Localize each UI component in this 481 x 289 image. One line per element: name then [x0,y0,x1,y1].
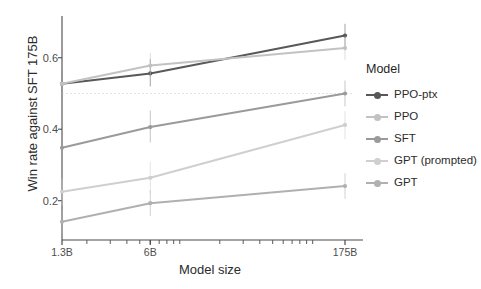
data-point [60,220,64,224]
series-line [62,93,345,147]
data-point [60,82,64,86]
chart-figure: Win rate against SFT 175B Model size 0.2… [0,0,481,289]
data-point [60,146,64,150]
legend-swatch-icon [366,133,388,145]
series-line [62,125,345,192]
series-ppo [60,36,347,98]
legend-item-gpt[interactable]: GPT [366,173,477,193]
data-point [60,190,64,194]
legend: Model PPO-ptxPPOSFTGPT (prompted)GPT [366,62,477,195]
legend-item-label: PPO-ptx [394,89,437,101]
legend-item-sft[interactable]: SFT [366,129,477,149]
series-gpt [60,173,347,234]
series-gpt-prompted [60,111,347,205]
legend-item-label: PPO [394,111,418,123]
legend-items: PPO-ptxPPOSFTGPT (prompted)GPT [366,85,477,193]
legend-item-ppo[interactable]: PPO [366,107,477,127]
data-point [148,64,152,68]
series-line [62,186,345,222]
data-point [148,125,152,129]
data-point [343,184,347,188]
legend-swatch-icon [366,111,388,123]
data-point [148,176,152,180]
legend-title: Model [366,62,477,76]
data-point [343,46,347,50]
legend-swatch-icon [366,177,388,189]
legend-item-label: SFT [394,133,416,145]
data-point [343,123,347,127]
data-point [148,201,152,205]
legend-swatch-icon [366,155,388,167]
series-line [62,36,345,84]
legend-item-label: GPT [394,177,418,189]
legend-item-gpt-prompted[interactable]: GPT (prompted) [366,151,477,171]
legend-item-ppo-ptx[interactable]: PPO-ptx [366,85,477,105]
data-point [343,91,347,95]
legend-item-label: GPT (prompted) [394,155,477,167]
legend-swatch-icon [366,89,388,101]
